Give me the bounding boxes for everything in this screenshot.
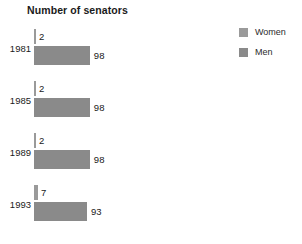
bar-men <box>34 150 90 169</box>
category-label-year: 1981 <box>0 43 31 54</box>
bar-pair-women: 2 <box>34 81 44 96</box>
bar-pair-women: 7 <box>34 185 46 200</box>
bar-value-women: 2 <box>39 83 44 94</box>
legend-label-men: Men <box>255 47 273 57</box>
bar-group: 1985 2 98 <box>0 78 230 130</box>
bar-women <box>34 29 36 44</box>
chart-legend: Women Men <box>239 22 302 62</box>
legend-item-men: Men <box>239 42 302 62</box>
bar-pair-women: 2 <box>34 133 44 148</box>
plot-area: 1981 2 98 1985 2 98 1989 <box>0 26 230 236</box>
bar-group: 1989 2 98 <box>0 130 230 182</box>
category-label-year: 1993 <box>0 199 31 210</box>
bar-group: 1981 2 98 <box>0 26 230 78</box>
bar-pair-men: 98 <box>34 46 104 65</box>
legend-label-women: Women <box>255 27 286 37</box>
bar-value-men: 98 <box>94 50 105 61</box>
chart-title: Number of senators <box>27 4 128 16</box>
bar-pair-men: 98 <box>34 150 104 169</box>
bar-women <box>34 81 36 96</box>
bar-women <box>34 133 36 148</box>
bar-group: 1993 7 93 <box>0 182 230 234</box>
bar-women <box>34 185 38 200</box>
category-label-year: 1985 <box>0 95 31 106</box>
legend-swatch-women <box>239 28 248 37</box>
bar-value-women: 7 <box>41 187 46 198</box>
bar-pair-women: 2 <box>34 29 44 44</box>
chart-container: Number of senators Women Men 1981 2 98 1… <box>0 0 302 244</box>
bar-men <box>34 98 90 117</box>
bar-men <box>34 46 90 65</box>
bar-pair-men: 93 <box>34 202 102 221</box>
legend-swatch-men <box>239 48 248 57</box>
bar-pair-men: 98 <box>34 98 104 117</box>
bar-value-men: 98 <box>94 102 105 113</box>
bar-value-men: 93 <box>91 206 102 217</box>
bar-men <box>34 202 87 221</box>
bar-value-women: 2 <box>39 135 44 146</box>
bar-value-men: 98 <box>94 154 105 165</box>
legend-item-women: Women <box>239 22 302 42</box>
bar-value-women: 2 <box>39 31 44 42</box>
category-label-year: 1989 <box>0 147 31 158</box>
